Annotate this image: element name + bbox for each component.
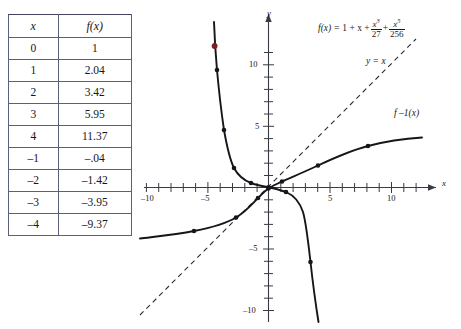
identity-line-y-equals-x — [140, 39, 416, 315]
y-tick-label-neg10: –10 — [243, 305, 256, 315]
x-tick-label-neg5: –5 — [201, 193, 210, 203]
values-table-panel: x f(x) 0 1 1 2.04 2 3.42 3 5.95 4 11.37 — [8, 14, 132, 236]
x-tick-label-5: 5 — [328, 193, 332, 203]
table-cell-x: 1 — [9, 60, 59, 82]
y-axis-label: y — [267, 8, 271, 18]
table-row: 2 3.42 — [9, 82, 132, 104]
y-tick-label-10: 10 — [249, 59, 258, 69]
figure-root: x f(x) 0 1 1 2.04 2 3.42 3 5.95 4 11.37 — [0, 0, 461, 329]
table-cell-x: 3 — [9, 104, 59, 126]
data-point — [256, 196, 261, 201]
formula-fraction-1: x327 — [371, 18, 382, 40]
x-axis-label: x — [442, 178, 446, 188]
table-cell-fx: 1 — [58, 38, 131, 60]
axis-arrowheads — [265, 14, 436, 191]
inverse-curve-label: f –1(x) — [394, 108, 419, 118]
data-point — [266, 186, 271, 191]
table-cell-fx: –3.95 — [58, 192, 131, 214]
table-row: –4 –9.37 — [9, 214, 132, 236]
table-cell-fx: 11.37 — [58, 126, 131, 148]
data-point — [215, 68, 220, 73]
formula-term1: 1 + x + — [342, 23, 369, 33]
formula-plus: + — [383, 23, 388, 33]
data-point — [192, 229, 197, 234]
table-cell-fx: –.04 — [58, 148, 131, 170]
table-cell-x: –4 — [9, 214, 59, 236]
table-cell-x: 0 — [9, 38, 59, 60]
table-cell-x: –2 — [9, 170, 59, 192]
table-row: –1 –.04 — [9, 148, 132, 170]
data-point — [249, 181, 254, 186]
table-cell-x: –1 — [9, 148, 59, 170]
table-cell-fx: –9.37 — [58, 214, 131, 236]
table-header-row: x f(x) — [9, 15, 132, 38]
y-tick-label-5: 5 — [255, 121, 259, 131]
data-point-markers-f — [215, 68, 313, 265]
formula-fraction-2: x5256 — [389, 18, 405, 40]
table-row: 1 2.04 — [9, 60, 132, 82]
table-cell-fx: 3.42 — [58, 82, 131, 104]
table-cell-x: 2 — [9, 82, 59, 104]
y-tick-label-neg5: –5 — [249, 243, 258, 253]
table-row: 3 5.95 — [9, 104, 132, 126]
table-cell-x: 4 — [9, 126, 59, 148]
table-cell-fx: 5.95 — [58, 104, 131, 126]
table-header-fx: f(x) — [58, 15, 131, 38]
x-tick-label-neg10: –10 — [141, 193, 154, 203]
data-point — [280, 179, 285, 184]
formula-lhs: f(x) = — [318, 23, 340, 33]
x-axis-arrow — [428, 184, 436, 190]
identity-line-label: y = x — [366, 56, 386, 66]
values-table: x f(x) 0 1 1 2.04 2 3.42 3 5.95 4 11.37 — [8, 14, 132, 236]
highlight-point — [212, 43, 218, 49]
data-point — [222, 128, 227, 133]
data-point — [316, 163, 321, 168]
table-row: –2 –1.42 — [9, 170, 132, 192]
table-row: 0 1 — [9, 38, 132, 60]
table-header-x: x — [9, 15, 59, 38]
data-point — [366, 144, 371, 149]
data-point — [284, 190, 289, 195]
x-tick-label-10: 10 — [387, 193, 396, 203]
table-cell-fx: 2.04 — [58, 60, 131, 82]
table-row: –3 –3.95 — [9, 192, 132, 214]
formula-annotation: f(x) = 1 + x +x327+x5256 — [318, 18, 406, 40]
table-cell-x: –3 — [9, 192, 59, 214]
axes — [144, 14, 436, 322]
table-cell-fx: –1.42 — [58, 170, 131, 192]
data-point — [308, 260, 313, 265]
data-point — [232, 166, 237, 171]
data-point — [234, 215, 239, 220]
graph-svg — [136, 0, 461, 329]
graph-panel: y x –10 –5 5 10 10 5 –5 –10 f(x) = 1 + x… — [136, 0, 461, 329]
table-row: 4 11.37 — [9, 126, 132, 148]
